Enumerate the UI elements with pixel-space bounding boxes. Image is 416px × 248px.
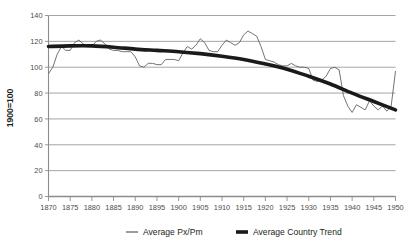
x-tick-label-1925: 1925 xyxy=(279,203,295,212)
x-tick-label-1895: 1895 xyxy=(149,203,165,212)
x-tick-label-1880: 1880 xyxy=(84,203,100,212)
y-axis-tick-labels: 020406080100120140 xyxy=(30,11,48,201)
chart-container: 020406080100120140 187018751880188518901… xyxy=(0,0,416,248)
y-axis-title: 1900=100 xyxy=(5,89,15,128)
x-tick-label-1935: 1935 xyxy=(322,203,338,212)
chart-legend: Average Px/PmAverage Country Trend xyxy=(126,227,342,237)
y-tick-label-80: 80 xyxy=(34,89,42,98)
x-tick-label-1875: 1875 xyxy=(62,203,78,212)
gridlines xyxy=(49,16,396,197)
x-tick-label-1950: 1950 xyxy=(387,203,403,212)
x-tick-label-1945: 1945 xyxy=(366,203,382,212)
data-series-layer xyxy=(49,31,396,112)
x-tick-label-1885: 1885 xyxy=(105,203,121,212)
y-axis-title-group: 1900=100 xyxy=(5,89,15,128)
x-tick-label-1940: 1940 xyxy=(344,203,360,212)
x-tick-label-1905: 1905 xyxy=(192,203,208,212)
y-tick-label-100: 100 xyxy=(30,63,42,72)
y-tick-label-60: 60 xyxy=(34,115,42,124)
y-tick-label-120: 120 xyxy=(30,37,42,46)
y-tick-label-20: 20 xyxy=(34,166,42,175)
y-tick-label-0: 0 xyxy=(38,192,42,201)
legend-label-2: Average Country Trend xyxy=(253,227,342,237)
plot-frame xyxy=(49,16,396,197)
x-tick-label-1930: 1930 xyxy=(301,203,317,212)
x-tick-label-1870: 1870 xyxy=(40,203,56,212)
series-average-country-trend xyxy=(49,46,396,110)
x-tick-label-1890: 1890 xyxy=(127,203,143,212)
line-chart-svg: 020406080100120140 187018751880188518901… xyxy=(0,0,416,248)
x-axis-tick-labels: 1870187518801885189018951900190519101915… xyxy=(40,203,403,212)
x-tick-label-1900: 1900 xyxy=(170,203,186,212)
x-tick-label-1910: 1910 xyxy=(214,203,230,212)
x-tick-label-1915: 1915 xyxy=(235,203,251,212)
y-tick-label-40: 40 xyxy=(34,141,42,150)
y-tick-label-140: 140 xyxy=(30,11,42,20)
x-tick-label-1920: 1920 xyxy=(257,203,273,212)
legend-label-1: Average Px/Pm xyxy=(143,227,203,237)
series-average-px-pm xyxy=(49,31,396,112)
